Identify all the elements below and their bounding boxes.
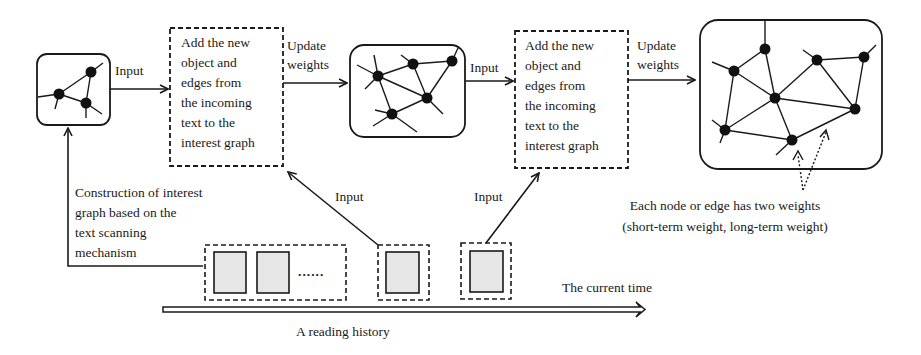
current-time-label: The current time [562,278,652,298]
label-input-2: Input [470,58,499,78]
process-box-1-text: Add the new object and edges from the in… [181,33,255,153]
text-line: Update [287,36,329,55]
text-line: text to the [181,113,255,133]
updated-graph [350,45,465,137]
interest-graph-diagram [0,0,921,355]
text-line: object and [181,53,255,73]
initial-graph [37,54,110,125]
construction-label: Construction of interest graph based on … [75,183,202,263]
weights-note: Each node or edge has two weights (short… [550,195,900,237]
document-icon [386,252,419,293]
text-line: weights [637,55,679,74]
label-update-2: Update weights [637,36,679,74]
text-line: Add the new [181,33,255,53]
label-update-1: Update weights [287,36,329,74]
text-line: edges from [525,76,599,96]
history-ellipsis: ...... [298,262,324,282]
text-line: the incoming [525,96,599,116]
text-line: (short-term weight, long-term weight) [550,216,900,237]
timeline-arrow [163,302,645,317]
arrow-input-up-2 [486,173,539,243]
document-icon [214,252,246,293]
text-line: graph based on the [75,203,202,223]
text-line: Each node or edge has two weights [550,195,900,216]
reading-history-label: A reading history [296,322,390,342]
text-line: weights [287,55,329,74]
label-input-up-2: Input [474,187,503,207]
text-line: interest graph [181,133,255,153]
text-line: the incoming [181,93,255,113]
document-icon [470,251,503,292]
label-input-1: Input [115,61,144,81]
label-input-up-1: Input [335,187,364,207]
process-box-2-text: Add the new object and edges from the in… [525,36,599,156]
text-line: Add the new [525,36,599,56]
text-line: Update [637,36,679,55]
text-line: text to the [525,116,599,136]
arrow-input-up-1 [288,172,378,245]
text-line: text scanning [75,223,202,243]
text-line: mechanism [75,243,202,263]
text-line: interest graph [525,136,599,156]
text-line: Construction of interest [75,183,202,203]
text-line: object and [525,56,599,76]
document-icon [257,252,289,293]
text-line: edges from [181,73,255,93]
final-graph [700,20,882,190]
